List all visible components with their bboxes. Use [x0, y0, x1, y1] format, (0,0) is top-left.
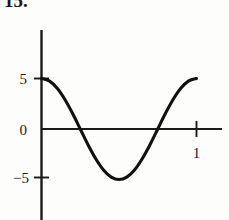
- chart-svg: 5 0 −5 1: [0, 0, 229, 220]
- y-tick-label-5: 5: [20, 71, 28, 87]
- figure-container: 15. 5 0 −5 1: [0, 0, 229, 220]
- y-tick-label-minus-5: −5: [13, 170, 29, 186]
- cosine-graph: 5 0 −5 1: [0, 0, 229, 220]
- x-tick-label-1: 1: [193, 145, 201, 161]
- y-tick-label-0: 0: [20, 122, 28, 138]
